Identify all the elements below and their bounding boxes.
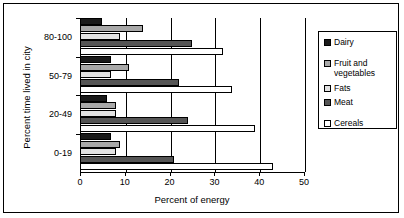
legend-label: Fruit and vegetables xyxy=(334,59,394,78)
bar-50-79-meat xyxy=(80,79,179,86)
bar-50-79-cereals xyxy=(80,86,232,93)
x-axis-line xyxy=(80,172,305,173)
gridline-30 xyxy=(215,18,216,172)
bar-50-79-fats xyxy=(80,71,111,78)
bar-0-19-cereals xyxy=(80,163,273,170)
x-tick-0 xyxy=(80,172,81,176)
legend-swatch-icon xyxy=(324,120,331,127)
legend-label: Meat xyxy=(334,98,353,108)
bar-80-100-meat xyxy=(80,40,192,47)
x-tick-label-50: 50 xyxy=(289,177,319,187)
bar-0-19-dairy xyxy=(80,133,111,140)
x-tick-10 xyxy=(125,172,126,176)
bar-20-49-fruit-and-vegetables xyxy=(80,102,116,109)
legend-label: Fats xyxy=(334,84,351,94)
legend-item-fats[interactable]: Fats xyxy=(324,84,394,94)
x-tick-30 xyxy=(214,172,215,176)
x-tick-label-40: 40 xyxy=(244,177,274,187)
legend-item-dairy[interactable]: Dairy xyxy=(324,38,394,48)
bar-80-100-fats xyxy=(80,33,120,40)
legend-label: Cereals xyxy=(334,119,363,129)
bar-80-100-fruit-and-vegetables xyxy=(80,25,143,32)
legend-item-cereals[interactable]: Cereals xyxy=(324,119,394,129)
x-tick-label-30: 30 xyxy=(199,177,229,187)
x-tick-50 xyxy=(304,172,305,176)
x-tick-20 xyxy=(170,172,171,176)
bar-20-49-dairy xyxy=(80,95,107,102)
chart-frame: 01020304050 0-1920-4950-7980-100 Percent… xyxy=(3,3,399,213)
chart-legend: DairyFruit and vegetablesFatsMeatCereals xyxy=(318,31,397,129)
bar-80-100-cereals xyxy=(80,48,223,55)
bar-50-79-dairy xyxy=(80,56,111,63)
x-tick-label-10: 10 xyxy=(110,177,140,187)
x-tick-label-0: 0 xyxy=(65,177,95,187)
legend-item-fruit-and-vegetables[interactable]: Fruit and vegetables xyxy=(324,59,394,78)
legend-swatch-icon xyxy=(324,60,331,67)
bar-50-79-fruit-and-vegetables xyxy=(80,64,129,71)
bar-80-100-dairy xyxy=(80,18,102,25)
legend-item-meat[interactable]: Meat xyxy=(324,98,394,108)
y-axis-title: Percent time lived in city xyxy=(21,28,32,168)
legend-swatch-icon xyxy=(324,99,331,106)
legend-swatch-icon xyxy=(324,85,331,92)
x-axis-title: Percent of energy xyxy=(80,194,304,205)
bar-20-49-meat xyxy=(80,117,188,124)
gridline-40 xyxy=(260,18,261,172)
gridline-50 xyxy=(305,18,306,172)
bar-0-19-fruit-and-vegetables xyxy=(80,141,120,148)
bar-0-19-meat xyxy=(80,156,174,163)
bar-20-49-fats xyxy=(80,110,116,117)
legend-swatch-icon xyxy=(324,39,331,46)
x-tick-label-20: 20 xyxy=(155,177,185,187)
bar-0-19-fats xyxy=(80,148,116,155)
x-tick-40 xyxy=(259,172,260,176)
legend-label: Dairy xyxy=(334,38,354,48)
bar-20-49-cereals xyxy=(80,125,255,132)
